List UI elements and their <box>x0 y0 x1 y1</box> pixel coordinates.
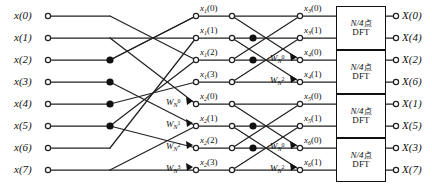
stage1-node <box>193 13 198 18</box>
junction-node <box>249 56 256 63</box>
output-label-1: X(4) <box>402 32 422 43</box>
input-node <box>45 167 50 172</box>
s1-edge-4b <box>110 104 196 148</box>
output-node <box>393 13 398 18</box>
dft-block-line2: DFT <box>352 116 370 125</box>
dft-block-2[interactable]: N/4点 DFT <box>336 94 386 138</box>
stage2-node <box>297 13 302 18</box>
stage2-label-6: x6(0) <box>304 136 322 146</box>
arrowhead-s1-0 <box>186 97 193 105</box>
input-label-6: x(6) <box>14 142 32 153</box>
stage1-label-4: x2(0) <box>200 92 218 102</box>
dft-block-line2: DFT <box>352 72 370 81</box>
stage1-label-6: x2(2) <box>200 136 218 146</box>
input-node <box>45 145 50 150</box>
input-node <box>45 79 50 84</box>
dft-block-0[interactable]: N/4点 DFT <box>336 6 386 50</box>
stage1b-node <box>229 101 234 106</box>
junction-node <box>106 78 113 85</box>
output-node <box>393 57 398 62</box>
output-node <box>393 123 398 128</box>
s1-edge-5b <box>110 60 196 126</box>
input-label-5: x(5) <box>14 120 32 131</box>
output-label-5: X(5) <box>402 120 422 131</box>
input-label-0: x(0) <box>14 10 32 21</box>
input-label-2: x(2) <box>14 54 32 65</box>
stage2-label-4: x5(0) <box>304 92 322 102</box>
s1-edge-6b <box>110 148 196 170</box>
stage1b-node <box>229 35 234 40</box>
input-node <box>45 13 50 18</box>
stage1-label-3: x1(3) <box>200 70 218 80</box>
output-node <box>393 35 398 40</box>
dft-block-line2: DFT <box>352 160 370 169</box>
stage1b-node <box>229 57 234 62</box>
stage2-label-3: x4(1) <box>304 70 322 80</box>
stage2-node <box>297 167 302 172</box>
stage1-label-1: x1(1) <box>200 26 218 36</box>
output-label-0: X(0) <box>402 10 422 21</box>
stage2-node <box>297 145 302 150</box>
twiddle-stage1-1: WN1 <box>166 120 181 130</box>
stage1-node <box>193 35 198 40</box>
twiddle-stage2-2: WN0 <box>270 142 285 152</box>
stage2-node <box>297 79 302 84</box>
stage2-label-1: x3(1) <box>304 26 322 36</box>
s1-edge-7b <box>110 126 196 170</box>
junction-node <box>106 100 113 107</box>
output-label-6: X(3) <box>402 142 422 153</box>
stage1-label-7: x2(3) <box>200 158 218 168</box>
stage2-node <box>297 57 302 62</box>
stage1-node <box>193 145 198 150</box>
stage1b-node <box>229 13 234 18</box>
junction-node <box>249 34 256 41</box>
s1-edge-5a <box>110 126 196 148</box>
junction-node <box>106 56 113 63</box>
output-label-2: X(2) <box>402 54 422 65</box>
stage1b-node <box>229 167 234 172</box>
input-label-3: x(3) <box>14 76 32 87</box>
output-node <box>393 145 398 150</box>
input-node <box>45 35 50 40</box>
stage1-label-2: x1(2) <box>200 48 218 58</box>
input-node <box>45 123 50 128</box>
s1-edge-0c <box>110 16 196 104</box>
stage2-label-0: x3(0) <box>304 4 322 14</box>
arrowhead-s1-2 <box>186 141 193 149</box>
junction-node <box>249 122 256 129</box>
stage2-node <box>297 101 302 106</box>
stage1b-node <box>229 145 234 150</box>
output-label-3: X(6) <box>402 76 422 87</box>
stage1-node <box>193 57 198 62</box>
twiddle-stage2-0: WN0 <box>270 54 285 64</box>
input-label-7: x(7) <box>14 164 32 175</box>
twiddle-stage1-3: WN3 <box>166 164 181 174</box>
stage1-node <box>193 79 198 84</box>
stage1-label-0: x1(0) <box>200 4 218 14</box>
input-label-1: x(1) <box>14 32 32 43</box>
stage1-node <box>193 101 198 106</box>
s1-edge-1a <box>110 38 196 104</box>
stage2-label-7: x6(1) <box>304 158 322 168</box>
dft-block-line2: DFT <box>352 28 370 37</box>
stage2-node <box>297 35 302 40</box>
input-node <box>45 57 50 62</box>
input-node <box>45 101 50 106</box>
stage1-node <box>193 123 198 128</box>
fft-flow-diagram: x(0) x(1) x(2) x(3) x(4) x(5) x(6) x(7) … <box>0 0 432 186</box>
dft-block-1[interactable]: N/4点 DFT <box>336 50 386 94</box>
twiddle-stage1-0: WN0 <box>166 98 181 108</box>
stage2-label-2: x4(0) <box>304 48 322 58</box>
output-node <box>393 79 398 84</box>
dft-block-3[interactable]: N/4点 DFT <box>336 138 386 182</box>
stage2-node <box>297 123 302 128</box>
output-label-7: X(7) <box>402 164 422 175</box>
output-label-4: X(1) <box>402 98 422 109</box>
twiddle-stage1-2: WN2 <box>166 142 181 152</box>
stage2-label-5: x5(1) <box>304 114 322 124</box>
input-label-4: x(4) <box>14 98 32 109</box>
arrowhead-s1-1 <box>186 119 193 127</box>
twiddle-stage2-1: WN2 <box>270 76 285 86</box>
junction-node <box>106 122 113 129</box>
output-node <box>393 167 398 172</box>
